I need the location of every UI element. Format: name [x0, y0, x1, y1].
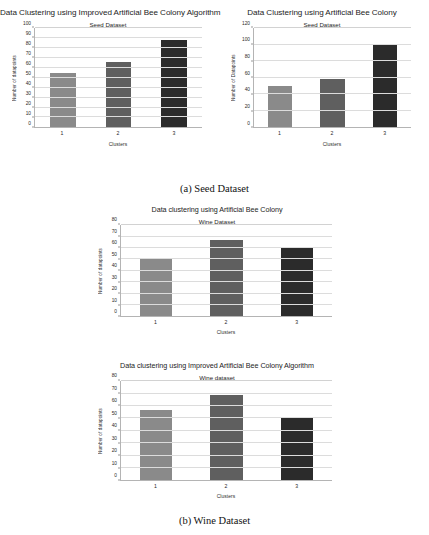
y-tick-label: 40 — [245, 88, 250, 93]
subfigure-caption-a: (a) Seed Dataset — [0, 183, 429, 194]
y-tick-label: 10 — [26, 111, 31, 116]
x-tick-label: 2 — [191, 320, 262, 325]
plot-area: Number of datapoints 01020304050607080 — [72, 381, 362, 481]
bar-cluster-2 — [320, 79, 344, 128]
gridline — [121, 467, 332, 468]
y-axis-title: Number of datapoints — [96, 225, 105, 317]
y-tick-label: 0 — [114, 310, 117, 315]
y-tick-label: 60 — [26, 61, 31, 66]
x-axis-title: Clusters — [34, 142, 202, 147]
gridline — [121, 224, 332, 225]
gridline — [254, 27, 411, 28]
y-tick-label: 100 — [242, 38, 250, 43]
bar-series — [35, 28, 202, 127]
chart-title: Data Clustering using Improved Artificia… — [0, 8, 216, 17]
gridline — [121, 304, 332, 305]
y-axis-ticks: 01020304050607080 — [105, 381, 120, 481]
gridline — [121, 442, 332, 443]
gridline — [35, 27, 202, 28]
y-axis-title: Number of datapoints — [96, 381, 105, 481]
y-tick-label: 40 — [26, 81, 31, 86]
figure-wine-abc: Data clustering using Artificial Bee Col… — [72, 206, 362, 335]
gridline — [121, 393, 332, 394]
figure-seed-improved-abc: Data Clustering using Improved Artificia… — [0, 8, 216, 147]
plot-canvas — [34, 28, 202, 128]
x-axis-ticks: 123 — [253, 131, 411, 136]
x-axis-ticks: 123 — [120, 320, 332, 325]
gridline — [254, 44, 411, 45]
y-tick-label: 40 — [112, 424, 117, 429]
bar-cluster-1 — [140, 258, 172, 316]
subfigure-caption-b: (b) Wine Dataset — [0, 515, 429, 526]
bar-cluster-3 — [281, 418, 313, 480]
bar-slot — [121, 225, 191, 316]
y-tick-label: 0 — [28, 121, 31, 126]
plot-canvas — [120, 381, 332, 481]
y-tick-label: 80 — [112, 374, 117, 379]
y-tick-label: 80 — [245, 54, 250, 59]
gridline — [254, 77, 411, 78]
gridline — [35, 57, 202, 58]
y-tick-label: 30 — [112, 437, 117, 442]
y-tick-label: 50 — [26, 71, 31, 76]
x-axis-title: Clusters — [120, 494, 332, 499]
bar-series — [121, 381, 332, 480]
y-axis-ticks: 0102030405060708090100 — [19, 28, 34, 128]
y-tick-label: 70 — [112, 387, 117, 392]
y-tick-label: 70 — [26, 51, 31, 56]
bar-slot — [146, 28, 202, 127]
y-tick-label: 70 — [112, 230, 117, 235]
chart-title: Data clustering using Artificial Bee Col… — [72, 206, 362, 214]
bar-slot — [262, 225, 332, 316]
x-axis-title: Clusters — [253, 142, 411, 147]
bar-slot — [35, 28, 91, 127]
y-tick-label: 80 — [26, 41, 31, 46]
gridline — [35, 47, 202, 48]
figure-wine-improved-abc: Data clustering using Improved Artificia… — [72, 362, 362, 499]
x-tick-label: 3 — [358, 131, 411, 136]
y-axis-title: Number of Datapoints — [229, 28, 238, 128]
gridline — [35, 67, 202, 68]
y-tick-label: 40 — [112, 264, 117, 269]
bar-slot — [91, 28, 147, 127]
y-axis-ticks: 01020304050607080 — [105, 225, 120, 317]
gridline — [121, 430, 332, 431]
y-tick-label: 0 — [247, 121, 250, 126]
gridline — [121, 380, 332, 381]
gridline — [121, 405, 332, 406]
gridline — [121, 236, 332, 237]
y-tick-label: 50 — [112, 412, 117, 417]
plot-canvas — [120, 225, 332, 317]
gridline — [121, 270, 332, 271]
x-axis-ticks: 123 — [120, 484, 332, 489]
y-tick-label: 30 — [26, 91, 31, 96]
bar-cluster-2 — [106, 62, 132, 127]
x-tick-label: 1 — [120, 484, 191, 489]
plot-area: Number of datapoints 01020304050607080 — [72, 225, 362, 317]
gridline — [121, 258, 332, 259]
plot-area: Number of datapoints 0102030405060708090… — [0, 28, 216, 128]
bar-slot — [191, 381, 261, 480]
gridline — [35, 77, 202, 78]
gridline — [254, 93, 411, 94]
gridline — [35, 37, 202, 38]
x-axis-title: Clusters — [120, 330, 332, 335]
bar-cluster-1 — [140, 410, 172, 481]
y-tick-label: 60 — [112, 241, 117, 246]
chart-title: Data clustering using Improved Artificia… — [72, 362, 362, 370]
gridline — [121, 247, 332, 248]
bar-slot — [191, 225, 261, 316]
y-tick-label: 20 — [26, 101, 31, 106]
gridline — [35, 116, 202, 117]
y-tick-label: 10 — [112, 299, 117, 304]
gridline — [121, 455, 332, 456]
y-tick-label: 120 — [242, 21, 250, 26]
gridline — [254, 60, 411, 61]
x-tick-label: 1 — [253, 131, 306, 136]
x-tick-label: 3 — [261, 320, 332, 325]
gridline — [121, 417, 332, 418]
y-tick-label: 60 — [112, 399, 117, 404]
bar-cluster-1 — [268, 86, 292, 127]
x-tick-label: 2 — [90, 131, 146, 136]
gridline — [35, 97, 202, 98]
